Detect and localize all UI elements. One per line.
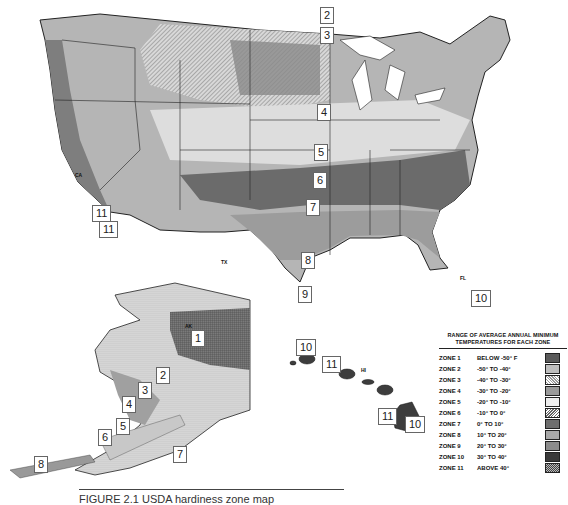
zone-callout: 5 <box>314 144 328 161</box>
legend-zone: ZONE 6 <box>439 410 477 416</box>
legend-swatch <box>545 375 560 385</box>
legend-range: 0° TO 10° <box>477 421 539 427</box>
state-label: FL <box>460 275 466 281</box>
legend-zone: ZONE 8 <box>439 432 477 438</box>
legend-range: 30° TO 40° <box>477 454 539 460</box>
legend-row-zone-5: ZONE 5-20° TO -10° <box>439 396 567 407</box>
zone-callout: 11 <box>99 221 118 238</box>
legend-range: -10° TO 0° <box>477 410 539 416</box>
legend-swatch <box>545 441 560 451</box>
zone-callout: 8 <box>34 456 48 473</box>
legend-zone: ZONE 7 <box>439 421 477 427</box>
legend-row-zone-2: ZONE 2-50° TO -40° <box>439 363 567 374</box>
alaska-map <box>10 283 250 478</box>
legend-swatch <box>545 364 560 374</box>
legend-swatch <box>545 430 560 440</box>
zone-callout: 11 <box>378 408 397 425</box>
legend-swatch <box>545 353 560 363</box>
zone-callout: 2 <box>320 7 334 24</box>
legend-zone: ZONE 9 <box>439 443 477 449</box>
legend-row-zone-11: ZONE 11ABOVE 40° <box>439 462 567 473</box>
zone-callout: 11 <box>322 356 341 373</box>
zone-callout: 7 <box>306 199 320 216</box>
legend-range: -40° TO -30° <box>477 377 539 383</box>
zone-callout: 6 <box>313 172 327 189</box>
legend-range: -20° TO -10° <box>477 399 539 405</box>
legend-range: 20° TO 30° <box>477 443 539 449</box>
legend-title-line2: TEMPERATURES FOR EACH ZONE <box>439 339 567 346</box>
legend-title-line1: RANGE OF AVERAGE ANNUAL MINIMUM <box>439 332 567 339</box>
zone-callout: 1 <box>191 330 205 347</box>
zone-callout: 4 <box>122 396 136 413</box>
zone-callout: 9 <box>298 286 312 303</box>
legend-swatch <box>545 397 560 407</box>
zone-callout: 10 <box>296 339 316 356</box>
legend-range: ABOVE 40° <box>477 465 539 471</box>
legend-row-zone-3: ZONE 3-40° TO -30° <box>439 374 567 385</box>
zone-callout: 4 <box>317 104 331 121</box>
zone-callout: 10 <box>405 416 425 433</box>
legend-swatch <box>545 386 560 396</box>
legend-range: -50° TO -40° <box>477 366 539 372</box>
zone-callout: 5 <box>116 418 130 435</box>
zone-callout: 3 <box>320 27 334 44</box>
state-label: TX <box>221 259 227 265</box>
legend-row-zone-9: ZONE 920° TO 30° <box>439 440 567 451</box>
legend-zone: ZONE 3 <box>439 377 477 383</box>
zone-callout: 2 <box>156 367 170 384</box>
legend-swatch <box>545 419 560 429</box>
legend-row-zone-4: ZONE 4-30° TO -20° <box>439 385 567 396</box>
legend-swatch <box>545 452 560 462</box>
zone-callout: 6 <box>98 429 112 446</box>
legend-row-zone-6: ZONE 6-10° TO 0° <box>439 407 567 418</box>
legend-zone: ZONE 4 <box>439 388 477 394</box>
legend-range: BELOW -50° F <box>477 355 539 361</box>
legend-range: -30° TO -20° <box>477 388 539 394</box>
figure-caption: FIGURE 2.1 USDA hardiness zone map <box>79 493 274 505</box>
zone-callout: 8 <box>301 252 315 269</box>
legend-zone: ZONE 11 <box>439 465 477 471</box>
zone-callout: 3 <box>138 382 152 399</box>
legend-row-zone-7: ZONE 70° TO 10° <box>439 418 567 429</box>
zone-callout: 10 <box>471 290 491 307</box>
legend-range: 10° TO 20° <box>477 432 539 438</box>
legend-row-zone-10: ZONE 1030° TO 40° <box>439 451 567 462</box>
legend-zone: ZONE 10 <box>439 454 477 460</box>
legend-swatch <box>545 408 560 418</box>
legend-zone: ZONE 5 <box>439 399 477 405</box>
zone-callout: 7 <box>173 446 187 463</box>
legend-zone: ZONE 2 <box>439 366 477 372</box>
legend-swatch <box>545 463 560 473</box>
legend-row-zone-8: ZONE 810° TO 20° <box>439 429 567 440</box>
state-label: CA <box>75 172 82 178</box>
legend-zone: ZONE 1 <box>439 355 477 361</box>
caption-divider <box>79 489 344 490</box>
state-label: HI <box>361 367 366 373</box>
legend: RANGE OF AVERAGE ANNUAL MINIMUM TEMPERAT… <box>439 332 567 473</box>
state-label: AK <box>185 323 192 329</box>
legend-title: RANGE OF AVERAGE ANNUAL MINIMUM TEMPERAT… <box>439 332 567 349</box>
zone-callout: 11 <box>92 205 111 222</box>
conus-map <box>40 14 510 282</box>
hawaii-map <box>290 354 420 432</box>
legend-row-zone-1: ZONE 1BELOW -50° F <box>439 352 567 363</box>
